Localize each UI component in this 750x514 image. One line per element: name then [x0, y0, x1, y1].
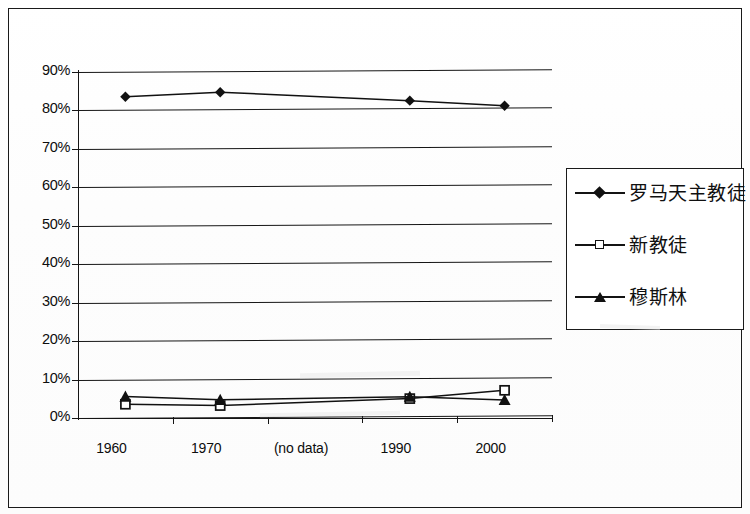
y-axis-tick-label: 60%: [14, 177, 70, 193]
y-axis-tick-label: 40%: [14, 254, 70, 270]
legend-label-protestant: 新教徒: [629, 236, 688, 255]
x-axis-tick-label: 1990: [381, 440, 411, 456]
legend-label-muslim: 穆斯林: [629, 288, 688, 307]
figure-root: 0%10%20%30%40%50%60%70%80%90% 19601970(n…: [0, 0, 750, 514]
gridline: [78, 223, 552, 227]
gridline: [78, 262, 552, 266]
x-axis-tick-label: (no data): [274, 440, 328, 456]
gridline: [78, 300, 552, 304]
chart-legend: 罗马天主教徒 新教徒 穆斯林: [566, 168, 744, 330]
y-axis-tick-label: 10%: [14, 370, 70, 386]
x-axis-tickmark: [457, 416, 458, 423]
y-axis-tick-label: 50%: [14, 216, 70, 232]
gridline: [78, 185, 552, 189]
legend-entry-catholic[interactable]: 罗马天主教徒: [567, 175, 743, 211]
y-axis-tick-label: 0%: [14, 408, 70, 424]
filled-triangle-icon: [573, 287, 629, 307]
plot-gridlines: [78, 72, 552, 418]
y-axis-tick-label: 90%: [14, 62, 70, 78]
x-axis-tickmark: [552, 415, 553, 422]
x-axis-line: [78, 418, 552, 419]
x-axis-tick-label: 1970: [191, 440, 221, 456]
legend-label-catholic: 罗马天主教徒: [629, 184, 746, 203]
x-axis-tickmark: [362, 416, 363, 423]
y-axis-tick-label: 20%: [14, 331, 70, 347]
legend-entry-muslim[interactable]: 穆斯林: [567, 279, 743, 315]
y-axis-tick-label: 70%: [14, 139, 70, 155]
y-axis-tick-label: 80%: [14, 100, 70, 116]
x-axis-tickmark: [268, 417, 269, 424]
open-square-icon: [573, 235, 629, 255]
gridline: [78, 108, 552, 112]
y-axis-line: [78, 70, 79, 420]
y-axis-tick-label: 30%: [14, 293, 70, 309]
gridline: [78, 146, 552, 150]
x-axis-tick-label: 2000: [475, 440, 505, 456]
gridline: [78, 338, 552, 342]
filled-diamond-icon: [573, 183, 629, 203]
x-axis-tick-label: 1960: [96, 440, 126, 456]
x-axis-tickmark: [173, 417, 174, 424]
legend-entry-protestant[interactable]: 新教徒: [567, 227, 743, 263]
